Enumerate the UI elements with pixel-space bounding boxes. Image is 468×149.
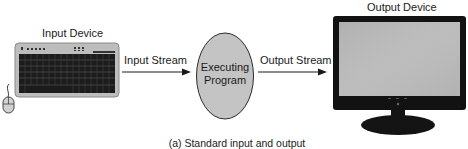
- executing-program-label: Executing Program: [199, 61, 251, 87]
- monitor-icon: [333, 16, 466, 135]
- figure-caption: (a) Standard input and output: [0, 137, 468, 149]
- executing-program-line2: Program: [199, 74, 251, 87]
- mouse-icon: [3, 84, 14, 113]
- input-device-label: Input Device: [42, 27, 103, 39]
- output-stream-arrow: [258, 69, 327, 76]
- input-stream-label: Input Stream: [124, 54, 187, 66]
- keyboard-icon: [15, 43, 119, 97]
- input-stream-arrow: [122, 69, 191, 76]
- output-stream-label: Output Stream: [260, 54, 332, 66]
- executing-program-line1: Executing: [199, 61, 251, 74]
- output-device-label: Output Device: [367, 1, 437, 13]
